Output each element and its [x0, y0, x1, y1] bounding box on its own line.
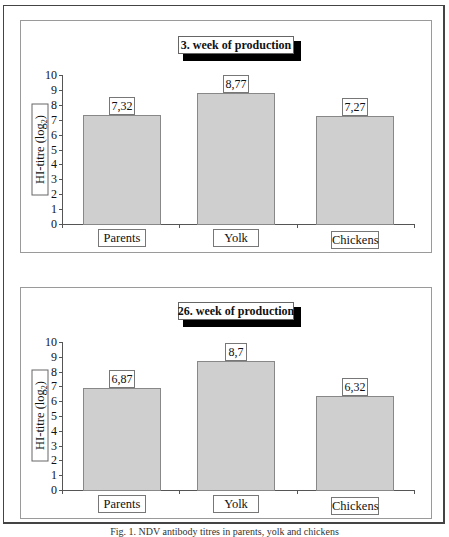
- y-tick-label: 10: [39, 336, 57, 348]
- chart-title-box: 3. week of production: [178, 36, 294, 54]
- x-tick: [414, 224, 415, 228]
- y-tick: [59, 209, 62, 210]
- y-tick: [59, 105, 62, 106]
- y-tick: [59, 372, 62, 373]
- data-label: 7,27: [342, 98, 368, 116]
- bar-chickens: [316, 116, 394, 225]
- data-label: 8,7: [225, 343, 247, 361]
- y-tick: [59, 75, 62, 76]
- x-category-label: Yolk: [213, 229, 259, 247]
- x-tick: [62, 490, 63, 494]
- x-tick: [414, 490, 415, 494]
- data-label: 6,32: [342, 378, 368, 396]
- y-tick: [59, 416, 62, 417]
- y-tick-label: 3: [39, 173, 57, 185]
- y-tick: [59, 431, 62, 432]
- y-tick: [59, 194, 62, 195]
- y-tick-label: 5: [39, 410, 57, 422]
- y-tick-label: 6: [39, 129, 57, 141]
- data-label: 8,77: [223, 75, 249, 93]
- y-tick-label: 7: [39, 380, 57, 392]
- y-tick: [59, 164, 62, 165]
- x-tick: [179, 224, 180, 228]
- y-tick-label: 0: [39, 218, 57, 230]
- bar-chickens: [316, 396, 394, 491]
- x-tick: [297, 490, 298, 494]
- y-tick: [59, 135, 62, 136]
- y-tick: [59, 357, 62, 358]
- chart-title-box: 26. week of production: [178, 302, 294, 320]
- data-label: 6,87: [109, 370, 135, 388]
- y-tick-label: 2: [39, 188, 57, 200]
- y-tick-label: 3: [39, 440, 57, 452]
- data-label: 7,32: [109, 97, 135, 115]
- x-category-label: Yolk: [213, 495, 259, 513]
- y-tick: [59, 342, 62, 343]
- bar-parents: [83, 388, 161, 491]
- figure-caption: Fig. 1. NDV antibody titres in parents, …: [0, 526, 449, 537]
- y-tick-label: 5: [39, 144, 57, 156]
- y-tick: [59, 179, 62, 180]
- bar-yolk: [197, 361, 275, 491]
- y-tick: [59, 120, 62, 121]
- x-category-label: Chickens: [331, 497, 379, 515]
- y-tick-label: 7: [39, 114, 57, 126]
- y-tick-label: 4: [39, 425, 57, 437]
- y-tick-label: 6: [39, 395, 57, 407]
- x-category-label: Parents: [98, 495, 146, 513]
- y-tick-label: 2: [39, 454, 57, 466]
- x-category-label: Chickens: [331, 231, 379, 249]
- y-axis: [62, 75, 63, 224]
- x-tick: [62, 224, 63, 228]
- chart-title-text: 3. week of production: [181, 38, 291, 53]
- y-axis: [62, 342, 63, 490]
- y-tick-label: 9: [39, 351, 57, 363]
- y-tick: [59, 475, 62, 476]
- y-tick-label: 0: [39, 484, 57, 496]
- y-tick-label: 4: [39, 158, 57, 170]
- x-category-label: Parents: [98, 229, 146, 247]
- y-tick: [59, 460, 62, 461]
- bar-parents: [83, 115, 161, 225]
- x-tick: [297, 224, 298, 228]
- y-tick-label: 1: [39, 203, 57, 215]
- x-tick: [179, 490, 180, 494]
- y-tick: [59, 150, 62, 151]
- y-tick: [59, 446, 62, 447]
- y-tick: [59, 90, 62, 91]
- y-tick-label: 8: [39, 366, 57, 378]
- y-tick-label: 1: [39, 469, 57, 481]
- y-tick: [59, 401, 62, 402]
- bar-yolk: [197, 93, 275, 225]
- chart-title-text: 26. week of production: [178, 304, 294, 319]
- y-tick: [59, 386, 62, 387]
- y-tick-label: 9: [39, 84, 57, 96]
- y-tick-label: 8: [39, 99, 57, 111]
- y-tick-label: 10: [39, 69, 57, 81]
